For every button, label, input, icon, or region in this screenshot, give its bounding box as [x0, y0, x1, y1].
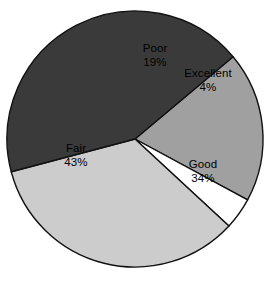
pie-chart: Poor19%Excellent4%Good34%Fair43% [0, 0, 271, 281]
pie-chart-canvas [0, 0, 271, 281]
pie-slices-group [7, 11, 263, 267]
